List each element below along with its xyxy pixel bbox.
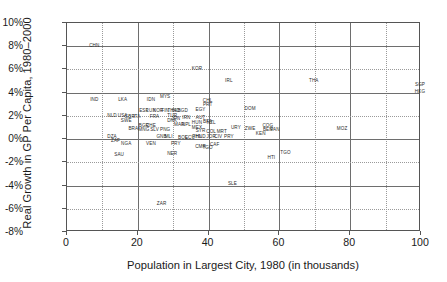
gridline-x-major: [209, 23, 210, 230]
plot-area: [66, 22, 420, 231]
y-tick-mark: [62, 208, 66, 209]
data-point-label: NPL: [182, 122, 191, 127]
data-point-label: IND: [90, 96, 98, 101]
x-tick-label: 20: [131, 236, 143, 248]
data-point-label: IRN: [182, 115, 190, 120]
data-point-label: ITA: [133, 114, 140, 119]
data-point-label: CIV: [214, 133, 222, 138]
y-tick-label: 0%: [0, 133, 23, 144]
data-point-label: SLE: [228, 181, 237, 186]
data-point-label: SLV: [150, 126, 159, 131]
gridline-y: [67, 186, 419, 187]
y-tick-label: -4%: [0, 179, 23, 190]
x-tick-mark: [349, 231, 350, 235]
y-tick-label: -8%: [0, 226, 23, 237]
x-tick-label: 80: [343, 236, 355, 248]
x-tick-label: 0: [63, 236, 69, 248]
y-tick-label: -6%: [0, 202, 23, 213]
gridline-y: [67, 46, 419, 47]
x-tick-label: 40: [202, 236, 214, 248]
data-point-label: KEN: [256, 131, 266, 136]
data-point-label: LUX: [146, 108, 155, 113]
data-point-label: NZL: [207, 119, 216, 124]
data-point-label: EGY: [196, 107, 206, 112]
gridline-x-minor: [102, 23, 103, 230]
x-axis-label: Population in Largest City, 1980 (in tho…: [66, 259, 420, 271]
data-point-label: PNG: [160, 126, 170, 131]
data-point-label: HKG: [415, 88, 425, 93]
data-point-label: HND: [195, 133, 205, 138]
y-tick-label: 4%: [0, 86, 23, 97]
data-point-label: SAU: [114, 152, 124, 157]
gridline-y: [67, 69, 419, 70]
data-point-label: IDN: [147, 96, 155, 101]
chart-figure: Real Growth in GP Per Capita, 1980–2000 …: [0, 0, 447, 282]
y-tick-mark: [62, 115, 66, 116]
data-point-label: PRY: [224, 133, 234, 138]
gridline-x-major: [350, 23, 351, 230]
y-tick-mark: [62, 22, 66, 23]
data-point-label: MNG: [138, 126, 149, 131]
data-point-label: PAN: [270, 126, 279, 131]
data-point-label: VEN: [146, 140, 156, 145]
y-tick-label: 2%: [0, 109, 23, 120]
y-tick-mark: [62, 68, 66, 69]
x-tick-mark: [208, 231, 209, 235]
data-point-label: ZAF: [111, 138, 120, 143]
data-point-label: SGP: [415, 81, 425, 86]
data-point-label: NGA: [121, 140, 131, 145]
gridline-y: [67, 162, 419, 163]
gridline-x-minor: [386, 23, 387, 230]
y-tick-label: -2%: [0, 156, 23, 167]
x-tick-label: 100: [411, 236, 429, 248]
data-point-label: HTI: [267, 154, 275, 159]
data-point-label: URY: [231, 124, 241, 129]
data-point-label: MLI: [165, 133, 173, 138]
data-point-label: SYR: [196, 127, 206, 132]
x-tick-mark: [66, 231, 67, 235]
data-point-label: DOM: [245, 105, 256, 110]
x-tick-label: 60: [272, 236, 284, 248]
y-tick-mark: [62, 161, 66, 162]
x-tick-mark: [420, 231, 421, 235]
y-tick-label: 10%: [0, 17, 23, 28]
y-tick-mark: [62, 138, 66, 139]
data-point-label: THA: [309, 78, 319, 83]
data-point-label: NER: [167, 151, 177, 156]
data-point-label: MYS: [160, 94, 170, 99]
data-point-label: IRL: [225, 78, 232, 83]
y-tick-label: 6%: [0, 63, 23, 74]
data-point-label: ZWE: [245, 125, 256, 130]
data-point-label: CAF: [210, 141, 220, 146]
y-tick-mark: [62, 45, 66, 46]
data-point-label: KOR: [192, 66, 202, 71]
data-point-label: PRY: [171, 140, 181, 145]
data-point-label: MOZ: [337, 125, 348, 130]
gridline-y: [67, 209, 419, 210]
gridline-x-minor: [315, 23, 316, 230]
x-tick-mark: [137, 231, 138, 235]
gridline-y: [67, 93, 419, 94]
data-point-label: CHN: [89, 43, 99, 48]
data-point-label: LKA: [118, 96, 127, 101]
data-point-label: ZAR: [157, 201, 167, 206]
data-point-label: BGD: [178, 108, 188, 113]
x-tick-mark: [278, 231, 279, 235]
data-point-label: TGO: [280, 150, 290, 155]
data-point-label: FRA: [150, 114, 160, 119]
y-tick-mark: [62, 92, 66, 93]
data-point-label: SWE: [121, 117, 132, 122]
y-tick-mark: [62, 185, 66, 186]
data-point-label: BRA: [128, 125, 138, 130]
data-point-label: NLD: [107, 112, 117, 117]
y-tick-label: 8%: [0, 40, 23, 51]
